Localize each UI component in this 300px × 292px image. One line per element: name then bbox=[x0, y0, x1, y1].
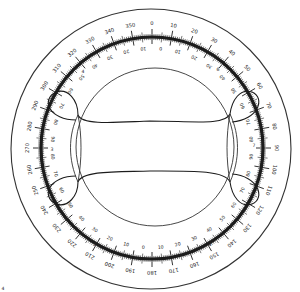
inner-scale-label: 90 bbox=[50, 136, 56, 142]
outer-degree-label: 40 bbox=[228, 48, 237, 57]
outer-degree-label: 140 bbox=[226, 238, 237, 249]
outer-degree-label: 10 bbox=[170, 22, 178, 29]
outer-degree-label: 100 bbox=[271, 164, 279, 175]
outer-degree-label: 190 bbox=[125, 267, 136, 275]
corner-mark: 4 bbox=[2, 286, 5, 291]
marker-top-left: 4 bbox=[82, 69, 85, 74]
outer-degree-label: 130 bbox=[242, 222, 253, 233]
outer-degree-label: 290 bbox=[30, 100, 39, 111]
outer-degree-label: 160 bbox=[189, 261, 200, 270]
outer-degree-label: 230 bbox=[51, 222, 62, 233]
inner-scale-label: 60 bbox=[58, 186, 65, 193]
outer-degree-label: 350 bbox=[125, 21, 136, 29]
outer-degree-label: 220 bbox=[66, 238, 77, 249]
inner-scale-label: 40 bbox=[91, 63, 99, 71]
outer-degree-label: 210 bbox=[84, 251, 96, 261]
outer-degree-label: 30 bbox=[210, 36, 219, 45]
inner-curves bbox=[48, 68, 259, 226]
inner-scale-label: 30 bbox=[205, 63, 213, 71]
outer-degree-label: 260 bbox=[25, 164, 33, 175]
outer-degree-label: 60 bbox=[256, 81, 265, 90]
outer-degree-label: 90 bbox=[274, 145, 280, 152]
outer-degree-label: 270 bbox=[24, 143, 30, 153]
outer-degree-label: 310 bbox=[51, 62, 62, 73]
inner-scale-label: 20 bbox=[174, 241, 181, 247]
outer-degree-label: 250 bbox=[30, 185, 39, 196]
outer-degree-label: 300 bbox=[39, 80, 49, 92]
inner-scale-label: 30 bbox=[91, 226, 99, 234]
inner-scale-label: 60 bbox=[230, 201, 238, 209]
inner-scale-label: 10 bbox=[140, 46, 146, 52]
marker-top-right: 6 bbox=[217, 67, 220, 72]
inner-scale-label: 90 bbox=[249, 153, 255, 159]
inner-scale-label: 70 bbox=[239, 186, 246, 193]
outer-degree-label: 120 bbox=[255, 204, 265, 216]
marker-bottom-left: 2 bbox=[94, 242, 97, 247]
outer-degree-label: 280 bbox=[25, 121, 33, 132]
inner-scale-label: 60 bbox=[239, 102, 246, 109]
outer-degree-label: 320 bbox=[66, 47, 77, 58]
inner-scale-labels: 0102030405060708090807060504030201001020… bbox=[50, 46, 254, 250]
outer-degree-label: 240 bbox=[39, 204, 49, 216]
inner-scale-label: 40 bbox=[205, 226, 213, 234]
inner-scale-label: 0 bbox=[142, 245, 145, 250]
inner-scale-label: 10 bbox=[158, 245, 164, 251]
outer-degree-label: 110 bbox=[265, 185, 274, 196]
protractor-svg: 0102030405060708090100110120130140150160… bbox=[0, 0, 300, 292]
outer-degree-label: 80 bbox=[271, 123, 278, 131]
inner-scale-label: 40 bbox=[219, 74, 227, 82]
inner-scale-label: 50 bbox=[78, 74, 86, 82]
inner-scale-label: 40 bbox=[78, 215, 86, 223]
outer-degree-label: 0 bbox=[150, 20, 153, 26]
scale-ticks bbox=[33, 29, 271, 267]
outer-degree-label: 330 bbox=[84, 35, 96, 45]
inner-scale-label: 20 bbox=[123, 48, 130, 54]
outer-degree-label: 200 bbox=[104, 261, 115, 270]
inner-scale-label: 20 bbox=[106, 235, 113, 242]
inner-scale-label: 70 bbox=[52, 170, 58, 177]
marker-right: 7 bbox=[253, 143, 256, 148]
inner-scale-label: 80 bbox=[245, 170, 251, 177]
inner-scale-label: 70 bbox=[58, 102, 65, 109]
outer-degree-label: 170 bbox=[168, 267, 179, 275]
outer-degree-labels: 0102030405060708090100110120130140150160… bbox=[24, 20, 279, 275]
outer-degree-label: 70 bbox=[265, 101, 273, 109]
inner-scale-label: 50 bbox=[219, 215, 227, 223]
inner-scale-label: 30 bbox=[190, 235, 197, 242]
inner-scale-label: 0 bbox=[159, 46, 162, 51]
inner-scale-label: 10 bbox=[123, 241, 130, 247]
outer-degree-label: 150 bbox=[208, 251, 220, 261]
protractor-diagram: 0102030405060708090100110120130140150160… bbox=[0, 0, 300, 292]
outer-degree-label: 340 bbox=[104, 26, 115, 35]
inner-scale-label: 70 bbox=[245, 119, 251, 126]
outer-degree-label: 50 bbox=[243, 63, 252, 72]
marker-bottom-right: 8 bbox=[209, 242, 212, 247]
inner-scale-label: 20 bbox=[190, 54, 197, 61]
inner-scale-label: 10 bbox=[174, 48, 181, 54]
outer-degree-label: 20 bbox=[190, 27, 198, 35]
inner-scale-label: 30 bbox=[106, 54, 113, 61]
inner-scale-label: 80 bbox=[50, 154, 56, 160]
outer-degree-label: 180 bbox=[147, 270, 157, 276]
inner-scale-label: 80 bbox=[52, 119, 58, 126]
marker-left: 3 bbox=[51, 147, 54, 152]
inner-scale-label: 80 bbox=[249, 136, 255, 142]
inner-scale-label: 50 bbox=[230, 87, 238, 95]
